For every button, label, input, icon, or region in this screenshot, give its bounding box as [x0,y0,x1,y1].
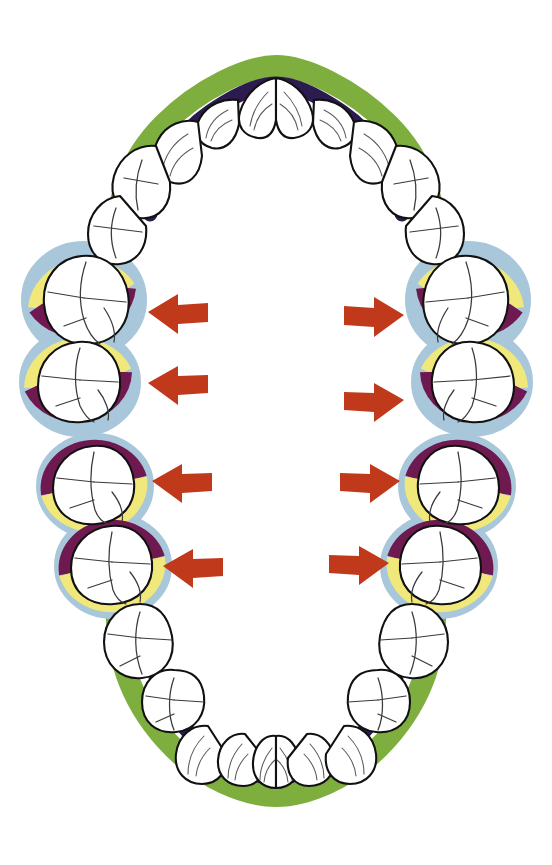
arrow-upper-left [148,294,208,334]
tooth-molar-mid-left [53,446,134,524]
arrow-upper-right [344,297,404,337]
arrow-lower-right [344,383,404,422]
indicator-arrows [148,294,404,588]
tooth-molar-upper-left [44,256,129,344]
tooth-l-premolar2-left [142,670,204,732]
tooth-molar-bottom-left [71,526,152,604]
arrow-bottom-right [329,546,389,585]
tooth-molar-upper-right [423,256,508,344]
arch-canvas [0,0,552,865]
tooth-molar-mid-right [418,446,499,524]
arrow-bottom-left [163,549,223,588]
tooth-l-premolar1-right [379,604,448,678]
arrow-mid-left [152,464,212,503]
tooth-molar-bottom-right [400,526,481,604]
upper-premolars [88,146,464,264]
tooth-molar-lower-right [432,342,514,422]
tooth-molar-lower-left [38,342,120,422]
lower-anterior-teeth [176,726,376,788]
tooth-l-premolar2-right [348,670,410,732]
dental-arch-diagram [0,0,552,865]
tooth-l-premolar1-left [104,604,173,678]
tooth-u-lateral-incisor-right [313,100,356,149]
lower-premolars [104,604,448,732]
tooth-u-lateral-incisor-left [196,100,239,149]
tooth-l-canine-right [326,726,376,784]
arrow-mid-right [340,464,400,503]
arrow-lower-left [148,366,208,405]
